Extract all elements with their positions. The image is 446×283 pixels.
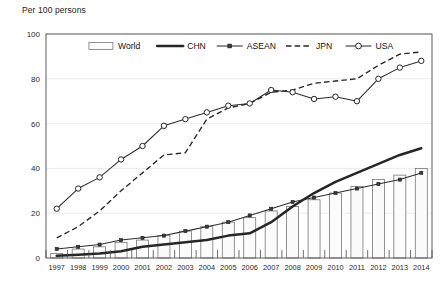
svg-text:60: 60 (31, 120, 40, 129)
svg-text:2010: 2010 (327, 263, 343, 272)
svg-text:1999: 1999 (91, 263, 107, 272)
svg-text:JPN: JPN (316, 41, 332, 51)
svg-text:ASEAN: ASEAN (247, 41, 276, 51)
svg-text:2009: 2009 (306, 263, 322, 272)
svg-text:40: 40 (31, 164, 40, 173)
series-asean-markers (55, 171, 423, 250)
series-asean-line (57, 173, 422, 249)
series-jpn-line (57, 52, 422, 238)
chart-plot: 020406080100 199719981999200020012002200… (0, 0, 446, 283)
x-axis-tick-labels: 1997199819992000200120022003200420052006… (48, 263, 429, 272)
svg-text:2011: 2011 (349, 263, 365, 272)
svg-text:2013: 2013 (392, 263, 408, 272)
series-chn-line (57, 148, 422, 256)
svg-text:2003: 2003 (177, 263, 193, 272)
chart-legend: WorldCHNASEANJPNUSA (89, 41, 394, 51)
svg-text:2014: 2014 (413, 263, 429, 272)
series-usa-markers (54, 58, 424, 211)
svg-text:80: 80 (31, 75, 40, 84)
svg-text:CHN: CHN (187, 41, 206, 51)
svg-text:2012: 2012 (370, 263, 386, 272)
svg-text:1997: 1997 (48, 263, 64, 272)
svg-text:2001: 2001 (134, 263, 150, 272)
svg-text:USA: USA (376, 41, 394, 51)
svg-text:0: 0 (36, 254, 41, 263)
svg-text:1998: 1998 (70, 263, 86, 272)
svg-text:2000: 2000 (113, 263, 129, 272)
svg-text:2007: 2007 (263, 263, 279, 272)
svg-text:2004: 2004 (199, 263, 215, 272)
y-axis-tick-labels: 020406080100 (27, 30, 41, 263)
svg-text:2005: 2005 (220, 263, 236, 272)
svg-text:2006: 2006 (241, 263, 257, 272)
svg-text:2008: 2008 (284, 263, 300, 272)
svg-text:20: 20 (31, 209, 40, 218)
chart-figure: Per 100 persons 020406080100 19971998199… (0, 0, 446, 283)
svg-text:World: World (118, 41, 141, 51)
svg-text:2002: 2002 (156, 263, 172, 272)
svg-text:100: 100 (27, 30, 41, 39)
